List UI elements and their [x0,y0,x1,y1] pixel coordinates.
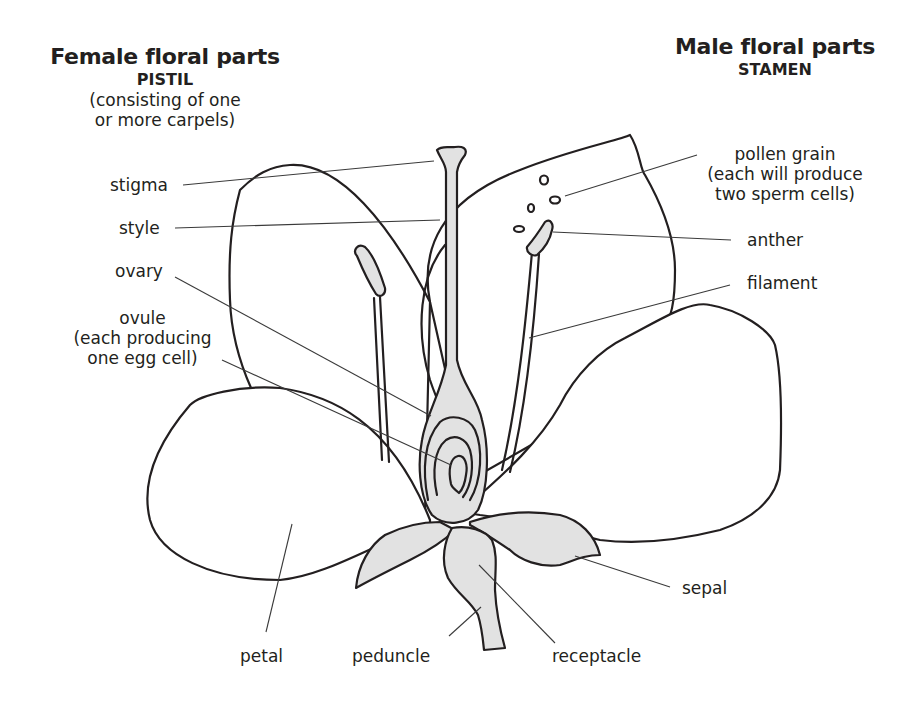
pollen-line-1: pollen grain [690,144,880,164]
label-ovary: ovary [115,261,163,281]
label-ovule: ovule (each producing one egg cell) [60,308,225,368]
female-heading: Female floral parts PISTIL (consisting o… [35,44,295,130]
pollen-line-3: two sperm cells) [690,184,880,204]
pistil-label: PISTIL [35,70,295,90]
pollen-line-2: (each will produce [690,164,880,184]
label-filament: filament [747,273,817,293]
male-title: Male floral parts [660,34,890,60]
label-style: style [119,218,160,238]
ovule-line-3: one egg cell) [60,348,225,368]
male-heading: Male floral parts STAMEN [660,34,890,80]
label-peduncle: peduncle [352,646,430,666]
pistil-note-2: or more carpels) [35,110,295,130]
stamen-label: STAMEN [660,60,890,80]
label-sepal: sepal [682,578,727,598]
ovule-line-1: ovule [60,308,225,328]
ovule-line-2: (each producing [60,328,225,348]
label-stigma: stigma [110,175,168,195]
receptacle-peduncle [444,527,505,650]
pistil-note-1: (consisting of one [35,90,295,110]
female-title: Female floral parts [35,44,295,70]
label-petal: petal [240,646,283,666]
label-pollen-grain: pollen grain (each will produce two sper… [690,144,880,204]
label-receptacle: receptacle [552,646,641,666]
label-anther: anther [747,230,803,250]
